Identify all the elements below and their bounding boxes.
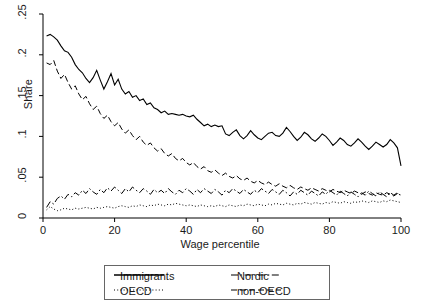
x-tick-label: 100 [386,224,416,236]
y-tick-label: .15 [16,81,28,107]
legend-item-oecd: OECD [113,285,152,297]
series-line-oecd [47,200,401,211]
legend: ImmigrantsNordicOECDnon-OECD [104,265,330,300]
legend-item-non-oecd: non-OECD [230,285,291,297]
plot-area [0,0,424,308]
x-tick-label: 40 [171,224,201,236]
legend-swatch-dashdot [230,270,282,280]
legend-item-immigrants: Immigrants [113,270,174,282]
y-tick-label: .05 [16,162,28,188]
x-tick-label: 80 [314,224,344,236]
y-tick-label: .1 [16,121,28,147]
legend-swatch-dotted [113,285,165,295]
series-line-immigrants [47,34,401,165]
x-tick-label: 0 [28,224,58,236]
y-tick-label: .2 [16,40,28,66]
legend-item-nordic: Nordic [230,270,269,282]
x-tick-label: 20 [100,224,130,236]
legend-swatch-dashed [230,285,282,295]
x-tick-label: 60 [243,224,273,236]
series-line-nordic [47,187,401,207]
series-line-non-oecd [47,61,401,196]
figure: Share Wage percentile 0.05.1.15.2.25 020… [0,0,424,308]
legend-swatch-solid [113,270,165,280]
y-tick-label: .25 [16,0,28,25]
y-tick-label: 0 [16,203,28,229]
